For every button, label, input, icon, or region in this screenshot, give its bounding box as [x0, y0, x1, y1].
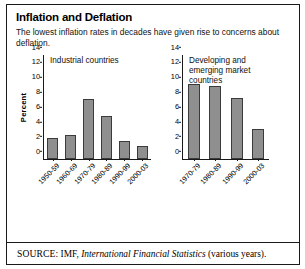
y-axis-tick: 14	[32, 44, 40, 51]
bar	[209, 86, 221, 159]
x-axis-labels-industrial: 1950-591960-691970-791980-891990-992000-…	[44, 159, 151, 193]
bar-series-developing	[183, 55, 269, 159]
y-axis-tick: 14	[171, 44, 179, 51]
plot-area-industrial: Industrial countries 1950-591960-691970-…	[43, 55, 151, 160]
y-axis-tick: 10	[171, 74, 179, 81]
bar	[119, 141, 130, 159]
bar-series-industrial	[44, 55, 151, 159]
y-axis-label: Percent	[20, 92, 29, 121]
x-axis-label: 1970-79	[177, 161, 202, 186]
y-axis-tick: 6	[175, 103, 179, 110]
x-axis-label: 1980-89	[198, 161, 223, 186]
y-axis-tick: 0	[175, 148, 179, 155]
y-axis-tick: 10	[32, 74, 40, 81]
y-axis-label-wrap: Percent	[18, 55, 30, 159]
chart-panel-industrial: Percent 02468101214 Industrial countries…	[18, 55, 151, 160]
source-label: SOURCE:	[17, 248, 58, 259]
y-axis-tick: 6	[36, 103, 40, 110]
y-axis-tick: 4	[175, 118, 179, 125]
y-axis-tick: 0	[36, 148, 40, 155]
bar	[188, 84, 200, 159]
y-axis-ticks-right: 02468101214	[169, 55, 182, 159]
x-axis-label-slot: 2000-03	[137, 159, 148, 193]
figure-frame: Inflation and Deflation The lowest infla…	[6, 4, 300, 265]
y-axis-tick-mark	[179, 47, 181, 48]
bar	[101, 116, 112, 159]
figure-subtitle: The lowest inflation rates in decades ha…	[16, 27, 284, 48]
y-axis-tick: 2	[36, 133, 40, 140]
x-axis-label: 1990-99	[220, 161, 245, 186]
y-axis-tick: 8	[36, 88, 40, 95]
x-axis-label-slot: 1980-89	[210, 159, 221, 193]
y-axis-tick: 12	[32, 59, 40, 66]
bar	[231, 98, 243, 159]
source-pre: IMF,	[58, 249, 81, 259]
bar	[137, 146, 148, 159]
bar	[47, 138, 58, 159]
x-axis-label-slot: 2000-03	[253, 159, 264, 193]
axis-block-left: 02468101214 Industrial countries 1950-59…	[30, 55, 151, 160]
y-axis-tick-mark	[40, 47, 42, 48]
y-axis-ticks-left: 02468101214	[30, 55, 43, 159]
y-axis-tick: 2	[175, 133, 179, 140]
y-axis-tick: 8	[175, 88, 179, 95]
plot-area-developing: Developing and emerging market countries…	[182, 55, 269, 160]
figure-title: Inflation and Deflation	[16, 11, 291, 24]
y-axis-tick: 12	[171, 59, 179, 66]
bar	[252, 129, 264, 159]
figure-container: Inflation and Deflation The lowest infla…	[0, 0, 305, 269]
bar	[83, 99, 94, 159]
x-axis-label-slot: 1970-79	[188, 159, 199, 193]
x-axis-label-slot: 1990-99	[231, 159, 242, 193]
y-axis-tick: 4	[36, 118, 40, 125]
chart-panels: Percent 02468101214 Industrial countries…	[16, 50, 291, 242]
x-axis-label: 2000-03	[241, 161, 266, 186]
source-note: SOURCE: IMF, International Financial Sta…	[17, 248, 299, 259]
source-publication: International Financial Statistics	[81, 249, 205, 259]
chart-panel-developing: 02468101214 Developing and emerging mark…	[169, 55, 269, 160]
source-post: (various years).	[206, 249, 267, 259]
x-axis-labels-developing: 1970-791980-891990-992000-03	[183, 159, 269, 193]
figure-footer: SOURCE: IMF, International Financial Sta…	[7, 242, 299, 264]
axis-block-right: 02468101214 Developing and emerging mark…	[169, 55, 269, 160]
bar	[65, 135, 76, 159]
